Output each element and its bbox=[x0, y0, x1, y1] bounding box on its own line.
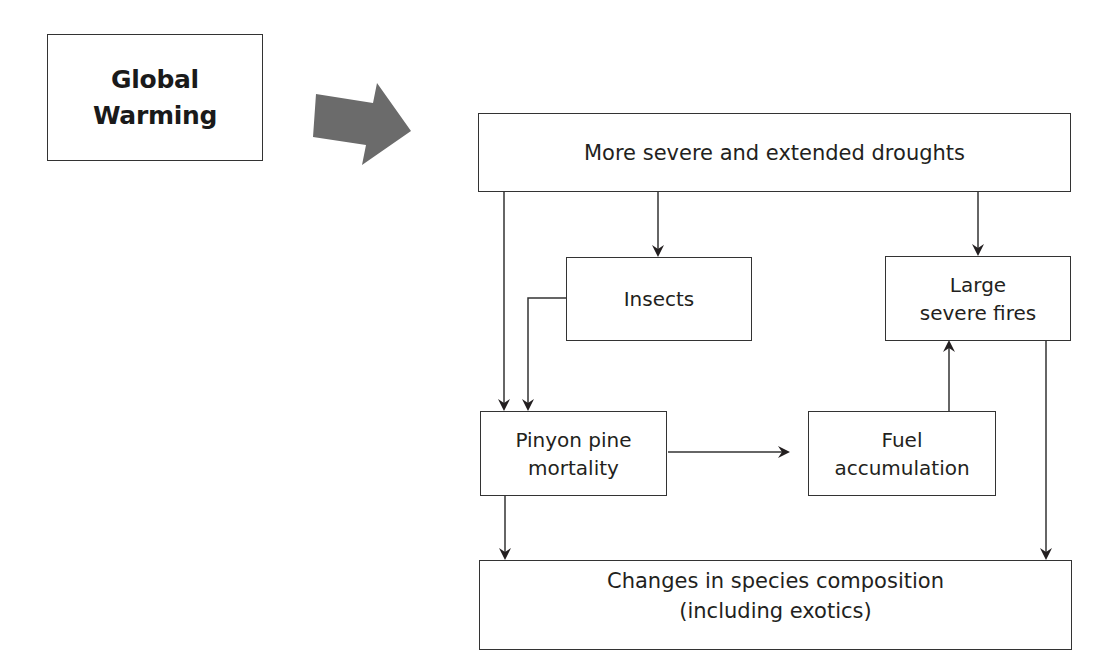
node-global-warming-line2: Warming bbox=[93, 98, 217, 134]
node-global-warming: Global Warming bbox=[47, 34, 263, 161]
node-pinyon-line2: mortality bbox=[528, 454, 619, 482]
node-species-line1: Changes in species composition bbox=[607, 566, 944, 596]
node-fires-line1: Large bbox=[950, 271, 1006, 299]
node-fires-line2: severe fires bbox=[920, 299, 1036, 327]
node-species: Changes in species composition (includin… bbox=[479, 560, 1072, 650]
node-fuel-line2: accumulation bbox=[834, 454, 969, 482]
node-insects: Insects bbox=[566, 257, 752, 341]
node-pinyon: Pinyon pine mortality bbox=[480, 411, 667, 496]
node-species-line2: (including exotics) bbox=[679, 596, 871, 626]
node-droughts-label: More severe and extended droughts bbox=[584, 138, 965, 168]
node-droughts: More severe and extended droughts bbox=[478, 113, 1071, 192]
node-pinyon-line1: Pinyon pine bbox=[515, 426, 631, 454]
node-fuel-line1: Fuel bbox=[882, 426, 923, 454]
edge-insects-to-pinyon bbox=[528, 298, 566, 409]
block-arrow-icon bbox=[313, 83, 411, 165]
node-insects-label: Insects bbox=[624, 285, 695, 313]
node-fuel: Fuel accumulation bbox=[808, 411, 996, 496]
node-fires: Large severe fires bbox=[885, 256, 1071, 341]
node-global-warming-line1: Global bbox=[111, 62, 199, 98]
